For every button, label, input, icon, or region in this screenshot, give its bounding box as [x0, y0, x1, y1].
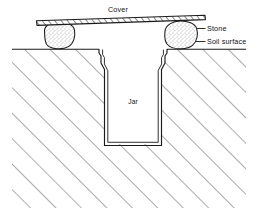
jar-label: Jar: [128, 98, 138, 105]
soil-surface-label: Soil surface: [207, 37, 246, 46]
stone-label: Stone: [207, 24, 227, 33]
jar-interior: [101, 50, 165, 143]
cover-label: Cover: [108, 5, 128, 14]
cross-section-diagram: Jar Cover Stone Soil surface: [0, 0, 257, 213]
stone-right-shape: [165, 21, 198, 49]
stone-right: [165, 21, 198, 49]
stone-left-shape: [44, 22, 74, 49]
figure-container: Jar Cover Stone Soil surface: [0, 0, 257, 213]
stone-left: [44, 22, 74, 49]
jar-shape: Jar: [99, 49, 167, 146]
